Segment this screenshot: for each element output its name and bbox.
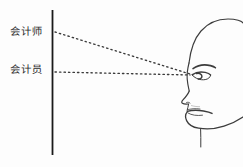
label-lower-tier: 会计员 (10, 65, 43, 76)
lower-sight-line (55, 72, 190, 75)
nostril-detail (187, 102, 190, 103)
profile-head (182, 19, 243, 147)
skull-crown-outline (189, 19, 243, 63)
figure-canvas: 会计师 会计员 (0, 0, 243, 167)
label-upper-tier: 会计师 (10, 27, 43, 38)
lower-lip-outline (188, 113, 203, 116)
chin-jaw-outline (186, 112, 243, 129)
forehead-brow-outline (187, 63, 189, 91)
eye-inner-corner (192, 75, 194, 76)
cheek-crease (191, 106, 199, 107)
eye-group (192, 65, 216, 80)
mouth-line (187, 110, 212, 113)
eyebrow (193, 65, 215, 69)
upper-sight-line (55, 32, 190, 74)
iris (197, 73, 202, 79)
